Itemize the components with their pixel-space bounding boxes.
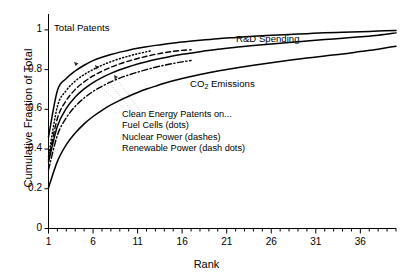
- x-tick-label: 36: [348, 236, 372, 247]
- x-tick-label: 26: [259, 236, 283, 247]
- x-tick-label: 16: [170, 236, 194, 247]
- co2-text-pre: CO: [190, 78, 204, 89]
- curve-label-co2-emissions: CO2 Emissions: [190, 78, 255, 90]
- leader-arrowhead: [114, 75, 118, 79]
- y-tick-label: 0.2: [16, 182, 42, 193]
- x-tick-label: 21: [215, 236, 239, 247]
- x-tick-marks: [49, 229, 397, 234]
- annotation-leader-lines: [74, 62, 141, 112]
- x-tick-label: 11: [126, 236, 150, 247]
- x-tick-label: 1: [37, 236, 61, 247]
- annotation-clean-energy-legend: Clean Energy Patents on...Fuel Cells (do…: [122, 109, 245, 155]
- y-tick-label: 0.6: [16, 102, 42, 113]
- y-tick-label: 0: [16, 222, 42, 233]
- annotation-line: Nuclear Power (dashes): [122, 132, 245, 143]
- x-tick-label: 31: [304, 236, 328, 247]
- y-tick-label: 0.4: [16, 142, 42, 153]
- y-tick-marks: [45, 30, 49, 229]
- annotation-line: Fuel Cells (dots): [122, 120, 245, 131]
- x-tick-label: 6: [81, 236, 105, 247]
- curve-label-rd-spending: R&D Spending: [236, 33, 299, 44]
- co2-text-post: Emissions: [208, 78, 254, 89]
- curve-label-total-patents: Total Patents: [54, 22, 109, 33]
- y-tick-label: 0.8: [16, 63, 42, 74]
- annotation-line: Renewable Power (dash dots): [122, 143, 245, 154]
- annotation-line: Clean Energy Patents on...: [122, 109, 245, 120]
- chart-figure: Cumulative Fraction of Total Rank 161116…: [0, 0, 413, 278]
- y-tick-label: 1: [16, 23, 42, 34]
- x-axis-label: Rank: [0, 258, 413, 270]
